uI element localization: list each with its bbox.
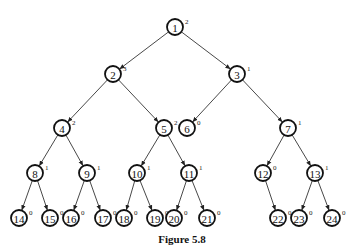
node-height-superscript: 0 xyxy=(81,209,85,217)
edge-9-16 xyxy=(74,181,84,210)
node-label: 19 xyxy=(150,213,162,225)
tree-node-10: 101 xyxy=(129,164,151,181)
tree-node-3: 31 xyxy=(229,65,251,82)
tree-node-8: 81 xyxy=(27,164,49,181)
node-label: 2 xyxy=(110,69,116,81)
node-label: 15 xyxy=(45,213,57,225)
edge-13-23 xyxy=(302,181,312,210)
node-label: 1 xyxy=(172,22,178,34)
node-label: 22 xyxy=(273,213,284,225)
node-label: 18 xyxy=(119,213,131,225)
node-height-superscript: 0 xyxy=(217,209,221,217)
node-height-superscript: 1 xyxy=(325,164,329,172)
node-label: 7 xyxy=(285,123,291,135)
node-height-superscript: 0 xyxy=(184,209,188,217)
node-height-superscript: 1 xyxy=(45,164,49,172)
tree-node-2: 23 xyxy=(105,65,127,82)
edge-4-9 xyxy=(66,135,83,166)
edge-1-2 xyxy=(120,32,169,69)
tree-node-11: 111 xyxy=(181,164,203,181)
node-label: 24 xyxy=(327,213,339,225)
edge-8-15 xyxy=(38,181,48,210)
node-height-superscript: 2 xyxy=(174,119,178,127)
nodes-group: 1223314252607181911011111201311401501601… xyxy=(11,18,346,226)
edge-5-10 xyxy=(141,135,160,166)
tree-node-14: 140 xyxy=(11,209,33,226)
edge-10-19 xyxy=(140,180,152,210)
node-label: 13 xyxy=(310,168,322,180)
edge-1-3 xyxy=(181,32,230,69)
tree-node-12: 120 xyxy=(255,164,277,181)
edge-9-17 xyxy=(90,181,100,210)
edge-12-22 xyxy=(266,181,276,210)
node-height-superscript: 0 xyxy=(273,164,277,172)
node-height-superscript: 1 xyxy=(199,164,203,172)
tree-node-24: 240 xyxy=(324,209,346,226)
node-height-superscript: 0 xyxy=(197,119,201,127)
tree-node-21: 210 xyxy=(199,209,221,226)
tree-node-13: 131 xyxy=(307,164,329,181)
node-label: 10 xyxy=(132,168,144,180)
tree-node-6: 60 xyxy=(179,119,201,136)
node-label: 20 xyxy=(169,213,181,225)
edge-3-6 xyxy=(193,80,232,122)
edge-8-14 xyxy=(22,181,32,210)
node-label: 12 xyxy=(258,168,269,180)
node-label: 11 xyxy=(184,168,195,180)
node-label: 16 xyxy=(66,213,78,225)
node-label: 21 xyxy=(202,213,213,225)
node-label: 14 xyxy=(14,213,26,225)
node-height-superscript: 0 xyxy=(134,209,138,217)
tree-node-23: 230 xyxy=(291,209,313,226)
edge-3-7 xyxy=(242,80,282,122)
tree-node-16: 160 xyxy=(63,209,85,226)
node-label: 4 xyxy=(59,123,65,135)
edge-4-8 xyxy=(39,135,58,166)
node-label: 8 xyxy=(32,168,38,180)
node-height-superscript: 1 xyxy=(247,65,251,73)
edge-5-11 xyxy=(168,135,185,166)
node-height-superscript: 0 xyxy=(29,209,33,217)
edge-2-5 xyxy=(118,80,158,122)
node-height-superscript: 2 xyxy=(72,119,76,127)
node-label: 5 xyxy=(161,123,167,135)
tree-node-5: 52 xyxy=(156,119,178,136)
node-height-superscript: 1 xyxy=(147,164,151,172)
tree-node-20: 200 xyxy=(166,209,188,226)
tree-node-15: 150 xyxy=(42,209,64,226)
tree-diagram: 1223314252607181911011111201311401501601… xyxy=(0,0,355,251)
edge-11-21 xyxy=(192,180,204,210)
tree-node-22: 220 xyxy=(270,209,292,226)
node-height-superscript: 1 xyxy=(298,119,302,127)
node-height-superscript: 2 xyxy=(185,18,189,26)
node-height-superscript: 1 xyxy=(97,164,101,172)
edge-11-20 xyxy=(177,181,187,210)
figure-caption: Figure 5.8 xyxy=(158,233,206,245)
tree-node-9: 91 xyxy=(79,164,101,181)
tree-node-4: 42 xyxy=(54,119,76,136)
node-height-superscript: 0 xyxy=(342,209,346,217)
edge-2-4 xyxy=(68,80,108,122)
edge-7-13 xyxy=(292,135,311,166)
tree-node-18: 180 xyxy=(116,209,138,226)
node-label: 6 xyxy=(184,123,190,135)
edge-10-18 xyxy=(126,181,134,210)
node-height-superscript: 3 xyxy=(123,65,127,73)
node-label: 23 xyxy=(294,213,306,225)
edge-13-24 xyxy=(318,180,329,210)
tree-node-17: 170 xyxy=(95,209,117,226)
edge-7-12 xyxy=(267,135,284,166)
node-label: 17 xyxy=(98,213,110,225)
tree-node-1: 12 xyxy=(167,18,189,35)
node-height-superscript: 0 xyxy=(309,209,313,217)
node-label: 3 xyxy=(234,69,240,81)
tree-node-7: 71 xyxy=(280,119,302,136)
node-label: 9 xyxy=(84,168,90,180)
